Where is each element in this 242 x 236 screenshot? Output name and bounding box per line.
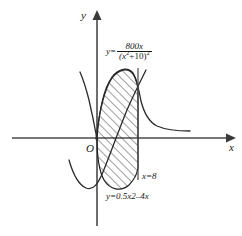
- parabola-equation-label: y=0.5x2–4x: [106, 192, 149, 201]
- origin-label: O: [86, 143, 94, 154]
- x-axis-label: x: [229, 142, 234, 153]
- fraction-denominator: (x2+10)2: [117, 52, 152, 61]
- denominator-exponent-outer: 2: [146, 49, 149, 56]
- math-figure: y x O y= 800x (x2+10)2 x=8 y=0.5x2–4x: [0, 0, 242, 236]
- parabola-left-branch: [80, 72, 97, 139]
- rational-curve-equation-label: y= 800x (x2+10)2: [106, 42, 152, 61]
- denominator-mid: +10): [129, 51, 146, 61]
- rational-equation-lhs: y=: [106, 47, 116, 56]
- fraction: 800x (x2+10)2: [117, 42, 152, 61]
- y-axis-label: y: [81, 10, 86, 21]
- vertical-line-label: x=8: [142, 172, 157, 181]
